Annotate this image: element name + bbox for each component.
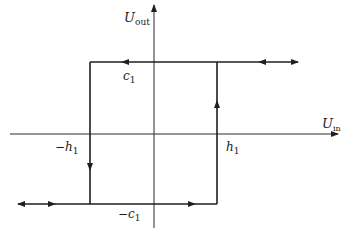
arrow-left-icon [258, 59, 266, 65]
direction-arrows [48, 59, 266, 207]
hysteresis-diagram: Uout Uin c1 −c1 h1 −h1 [0, 0, 344, 235]
neg-c1-label: −c1 [118, 207, 141, 223]
h1-label: h1 [226, 140, 239, 156]
arrow-right-icon [188, 201, 196, 207]
arrow-left-icon [121, 59, 129, 65]
arrow-right-icon [48, 201, 56, 207]
x-axis-label: Uin [322, 116, 341, 133]
arrow-up-icon [214, 100, 220, 108]
labels: Uout Uin c1 −c1 h1 −h1 [55, 10, 341, 223]
arrow-down-icon [87, 163, 93, 171]
neg-h1-label: −h1 [55, 140, 79, 156]
c1-label: c1 [123, 69, 135, 85]
axes [10, 5, 338, 228]
hysteresis-loop [18, 62, 298, 204]
y-axis-label: Uout [124, 10, 150, 27]
